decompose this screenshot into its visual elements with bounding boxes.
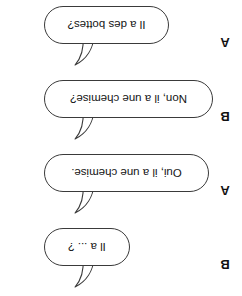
bubble-text: Il a ... ? xyxy=(60,241,114,254)
speech-bubble[interactable]: Il a des bottes? xyxy=(44,6,169,68)
speech-bubble[interactable]: Non, il a une chemise? xyxy=(44,80,213,142)
dialogue-line: B Non, il a une chemise? xyxy=(0,74,242,148)
speech-bubble[interactable]: Oui, il a une chemise. xyxy=(44,154,209,216)
speaker-label: A xyxy=(214,182,236,198)
bubble-body: Oui, il a une chemise. xyxy=(44,154,209,192)
dialogue-line: B Il a ... ? xyxy=(0,222,242,296)
bubble-body: Il a ... ? xyxy=(44,228,130,266)
bubble-text: Oui, il a une chemise. xyxy=(63,167,190,180)
dialogue-line: A Oui, il a une chemise. xyxy=(0,148,242,222)
speaker-label: B xyxy=(214,256,236,272)
bubble-body: Il a des bottes? xyxy=(44,6,169,44)
bubble-body: Non, il a une chemise? xyxy=(44,80,213,118)
speech-bubble[interactable]: Il a ... ? xyxy=(44,228,130,290)
speaker-label: B xyxy=(214,108,236,124)
worksheet-canvas: B Il a ... ? A Oui, il a une chemise. xyxy=(0,0,242,296)
dialogue-line: A Il a des bottes? xyxy=(0,0,242,74)
bubble-text: Non, il a une chemise? xyxy=(62,93,195,106)
bubble-text: Il a des bottes? xyxy=(60,19,154,32)
speaker-label: A xyxy=(214,34,236,50)
